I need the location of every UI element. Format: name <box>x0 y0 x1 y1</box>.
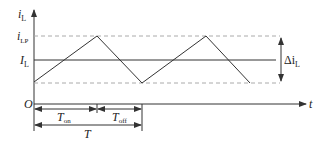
x-axis-label: t <box>309 97 313 111</box>
peak-label: iLP <box>17 29 29 45</box>
toff-label: Toff <box>112 110 127 125</box>
origin-label: O <box>24 97 33 111</box>
inductor-current-diagram: iL iLP IL O t ΔiL Ton Toff T <box>0 0 327 145</box>
ton-label: Ton <box>57 110 71 125</box>
y-axis-label: iL <box>18 7 26 23</box>
period-label: T <box>84 127 92 141</box>
ripple-label: ΔiL <box>284 53 300 69</box>
average-label: IL <box>19 53 29 69</box>
